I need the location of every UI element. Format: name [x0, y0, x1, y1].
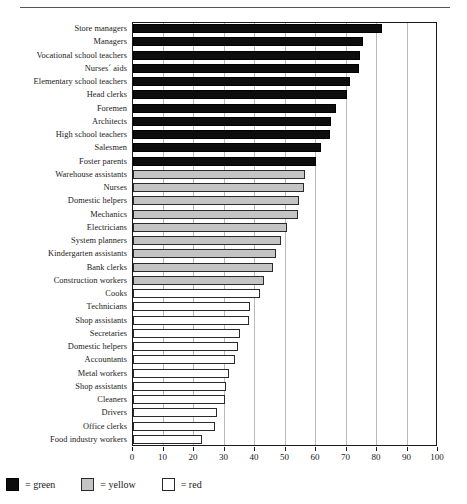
bar-green	[133, 143, 321, 152]
bar-green	[133, 64, 359, 73]
bar-row: Elementary school teachers	[0, 75, 467, 88]
bar-green	[133, 90, 347, 99]
bar-row: Mechanics	[0, 208, 467, 221]
category-label: Construction workers	[0, 276, 127, 285]
legend-swatch-yellow	[81, 478, 94, 491]
category-label: Nurses	[0, 183, 127, 192]
bar-row: Kindergarten assistants	[0, 247, 467, 260]
category-label: Bank clerks	[0, 263, 127, 272]
bar-red	[133, 355, 235, 364]
bar-green	[133, 104, 336, 113]
category-label: Cooks	[0, 289, 127, 298]
bar-row: Domestic helpers	[0, 194, 467, 207]
bar-row: Salesmen	[0, 141, 467, 154]
category-label: Shop assistants	[0, 382, 127, 391]
bar-container	[133, 77, 350, 86]
bar-row: Vocational school teachers	[0, 49, 467, 62]
x-tick	[254, 447, 255, 451]
x-tick-label: 100	[430, 452, 444, 462]
bar-row: Nurses	[0, 181, 467, 194]
x-tick-label: 30	[219, 452, 228, 462]
bar-container	[133, 210, 298, 219]
bar-row: Head clerks	[0, 88, 467, 101]
bar-yellow	[133, 183, 304, 192]
bar-red	[133, 435, 202, 444]
bar-container	[133, 90, 347, 99]
x-tick-label: 40	[250, 452, 259, 462]
legend-swatch-green	[6, 478, 19, 491]
bar-row: Cleaners	[0, 393, 467, 406]
bar-container	[133, 342, 238, 351]
bar-container	[133, 408, 217, 417]
bar-container	[133, 395, 225, 404]
bar-green	[133, 130, 330, 139]
bar-container	[133, 276, 264, 285]
category-label: Foremen	[0, 104, 127, 113]
bar-container	[133, 329, 240, 338]
category-label: Metal workers	[0, 369, 127, 378]
category-label: Elementary school teachers	[0, 77, 127, 86]
category-label: Head clerks	[0, 90, 127, 99]
bar-yellow	[133, 249, 276, 258]
bar-red	[133, 395, 225, 404]
chart-page: Store managersManagersVocational school …	[0, 0, 467, 504]
bar-red	[133, 342, 238, 351]
bar-row: Office clerks	[0, 420, 467, 433]
horizontal-bar-chart: Store managersManagersVocational school …	[0, 22, 467, 447]
category-label: Food industry workers	[0, 435, 127, 444]
x-tick	[132, 447, 133, 451]
x-tick	[285, 447, 286, 451]
bar-green	[133, 37, 363, 46]
category-label: Secretaries	[0, 329, 127, 338]
bar-container	[133, 289, 260, 298]
bar-green	[133, 24, 382, 33]
bar-container	[133, 170, 305, 179]
bar-row: Accountants	[0, 353, 467, 366]
bar-row: Bank clerks	[0, 261, 467, 274]
bar-container	[133, 369, 229, 378]
x-tick-label: 90	[402, 452, 411, 462]
bar-red	[133, 422, 215, 431]
bar-green	[133, 117, 331, 126]
bar-row: Metal workers	[0, 367, 467, 380]
bar-green	[133, 77, 350, 86]
header-rule	[20, 7, 450, 8]
bar-row: Shop assistants	[0, 380, 467, 393]
bar-yellow	[133, 170, 305, 179]
bar-row: Managers	[0, 35, 467, 48]
bar-row: Store managers	[0, 22, 467, 35]
bar-container	[133, 435, 202, 444]
bar-green	[133, 157, 316, 166]
category-label: Vocational school teachers	[0, 51, 127, 60]
bar-green	[133, 51, 360, 60]
bar-yellow	[133, 196, 299, 205]
x-tick-label: 80	[372, 452, 381, 462]
legend-item-red: = red	[162, 478, 202, 491]
bar-row: Technicians	[0, 300, 467, 313]
x-tick	[315, 447, 316, 451]
legend-swatch-red	[162, 478, 175, 491]
category-label: Kindergarten assistants	[0, 249, 127, 258]
bar-row: Foster parents	[0, 155, 467, 168]
bar-row: Cooks	[0, 287, 467, 300]
x-tick-label: 10	[158, 452, 167, 462]
bar-red	[133, 329, 240, 338]
bar-container	[133, 104, 336, 113]
x-tick	[407, 447, 408, 451]
bar-row: System planners	[0, 234, 467, 247]
legend-label: = yellow	[100, 479, 135, 490]
x-tick	[163, 447, 164, 451]
category-label: Drivers	[0, 408, 127, 417]
bar-container	[133, 422, 215, 431]
bar-row: Architects	[0, 115, 467, 128]
x-axis: 0102030405060708090100	[0, 447, 467, 467]
category-label: Shop assistants	[0, 316, 127, 325]
x-tick	[437, 447, 438, 451]
bar-container	[133, 263, 273, 272]
x-tick-label: 0	[130, 452, 135, 462]
bar-container	[133, 130, 330, 139]
category-label: Salesmen	[0, 143, 127, 152]
x-tick-label: 70	[341, 452, 350, 462]
bar-red	[133, 382, 226, 391]
bar-red	[133, 408, 217, 417]
